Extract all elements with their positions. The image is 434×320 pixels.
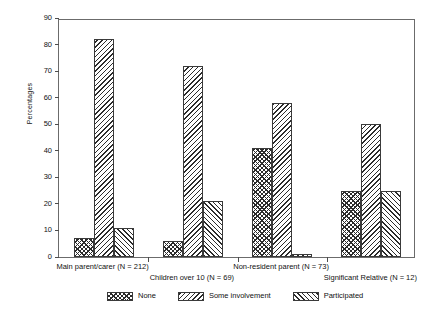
bar: [381, 191, 401, 257]
y-tick-label: 10: [44, 225, 52, 235]
bar: [114, 228, 134, 257]
bar-chart-figure: Percentages 0102030405060708090 Main par…: [0, 0, 434, 320]
y-tick-label: 60: [44, 93, 52, 103]
legend-label: Participated: [324, 291, 364, 301]
x-axis-group-label: Main parent/carer (N = 212): [56, 262, 148, 272]
y-tick-label: 40: [44, 146, 52, 156]
x-axis-group-label: Significant Relative (N = 12): [324, 273, 417, 283]
legend-item: Participated: [293, 291, 364, 301]
y-tick-label: 20: [44, 199, 52, 209]
bar: [292, 254, 312, 257]
x-axis-group-label: Children over 10 (N = 69): [150, 273, 234, 283]
legend-item: None: [107, 291, 156, 301]
bar: [361, 124, 381, 257]
bar: [272, 103, 292, 257]
legend-swatch: [293, 292, 319, 301]
plot-area: 0102030405060708090: [58, 19, 415, 258]
legend-label: None: [138, 291, 156, 301]
x-axis-group-label: Non-resident parent (N = 73): [233, 262, 329, 272]
y-axis-title: Percentages: [26, 54, 33, 154]
bar: [183, 66, 203, 257]
y-tick-mark: [55, 18, 59, 19]
legend-swatch: [178, 292, 204, 301]
chart-legend: NoneSome involvementParticipated: [107, 291, 385, 301]
y-tick-label: 90: [44, 13, 52, 23]
bar: [74, 238, 94, 257]
bar: [252, 148, 272, 257]
y-tick-label: 70: [44, 66, 52, 76]
y-tick-label: 30: [44, 172, 52, 182]
y-tick-label: 80: [44, 40, 52, 50]
bars-layer: [59, 20, 414, 257]
legend-label: Some involvement: [209, 291, 271, 301]
bar: [163, 241, 183, 257]
legend-item: Some involvement: [178, 291, 271, 301]
y-tick-label: 50: [44, 119, 52, 129]
y-tick-label: 0: [48, 252, 52, 262]
bar: [203, 201, 223, 257]
bar: [94, 39, 114, 257]
bar: [341, 191, 361, 257]
legend-swatch: [107, 292, 133, 301]
